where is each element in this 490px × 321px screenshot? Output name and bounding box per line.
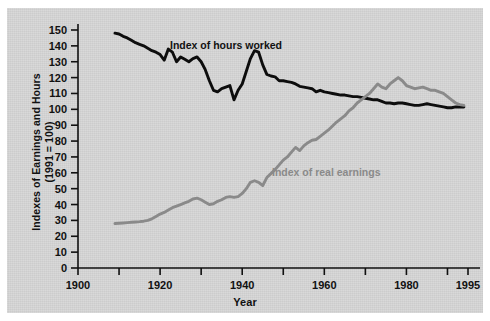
axes — [78, 24, 480, 268]
series-label-hours-worked: Index of hours worked — [170, 39, 282, 51]
chart-figure: 0102030405060708090100110120130140150190… — [0, 0, 490, 321]
svg-text:140: 140 — [49, 40, 67, 52]
y-axis-title: Indexes of Earnings and Hours (1991 = 10… — [30, 52, 70, 252]
svg-text:1900: 1900 — [66, 279, 90, 291]
series-label-real-earnings: Index of real earnings — [272, 166, 381, 178]
axis-ticks — [71, 30, 468, 275]
data-series — [115, 33, 464, 223]
x-axis-title: Year — [0, 296, 490, 308]
axis-tick-labels: 0102030405060708090100110120130140150190… — [49, 24, 481, 291]
svg-text:0: 0 — [61, 262, 67, 274]
svg-text:1920: 1920 — [148, 279, 172, 291]
svg-text:150: 150 — [49, 24, 67, 36]
svg-text:1995: 1995 — [456, 279, 480, 291]
svg-text:1940: 1940 — [230, 279, 254, 291]
svg-text:1980: 1980 — [394, 279, 418, 291]
svg-text:1960: 1960 — [312, 279, 336, 291]
